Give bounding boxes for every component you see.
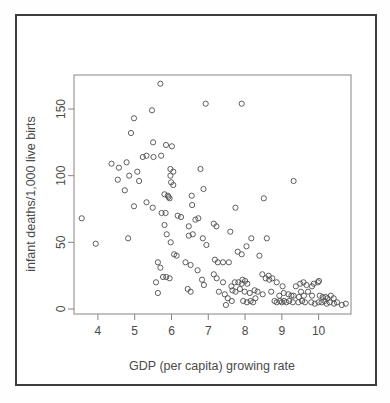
data-point-marker	[242, 289, 247, 294]
data-point-marker	[260, 292, 265, 297]
data-point-marker	[220, 280, 225, 285]
data-point-marker	[158, 265, 163, 270]
data-point-marker	[186, 224, 191, 229]
data-point-marker	[201, 186, 206, 191]
data-point-marker	[149, 108, 154, 113]
data-point-marker	[137, 178, 142, 183]
data-point-marker	[124, 160, 129, 165]
x-tick-label: 8	[242, 324, 249, 338]
data-point-marker	[291, 178, 296, 183]
data-point-marker	[79, 216, 84, 221]
data-point-marker	[309, 293, 314, 298]
data-point-marker	[131, 116, 136, 121]
data-point-marker	[220, 260, 225, 265]
x-tick-label: 9	[278, 324, 285, 338]
x-tick-label: 6	[168, 324, 175, 338]
data-point-marker	[239, 101, 244, 106]
data-point-marker	[216, 289, 221, 294]
screenshot-canvas: 45678910 050100150 GDP (per capita) grow…	[0, 0, 390, 403]
data-point-marker	[126, 236, 131, 241]
data-point-marker	[128, 130, 133, 135]
data-point-marker	[274, 280, 279, 285]
data-point-marker	[122, 188, 127, 193]
data-point-marker	[188, 262, 193, 267]
y-tick-label: 100	[54, 165, 68, 185]
data-point-marker	[261, 196, 266, 201]
scatter-plot: 45678910 050100150 GDP (per capita) grow…	[17, 16, 375, 384]
x-tick-label: 5	[131, 324, 138, 338]
data-point-marker	[301, 293, 306, 298]
data-point-marker	[229, 298, 234, 303]
data-point-marker	[199, 277, 204, 282]
data-point-marker	[169, 144, 174, 149]
data-point-marker	[116, 165, 121, 170]
data-point-marker	[264, 236, 269, 241]
data-point-marker	[190, 202, 195, 207]
y-tick-label: 150	[54, 99, 68, 119]
data-point-marker	[316, 278, 321, 283]
data-point-marker	[239, 252, 244, 257]
data-point-marker	[144, 200, 149, 205]
data-point-marker	[131, 204, 136, 209]
figure-frame: 45678910 050100150 GDP (per capita) grow…	[15, 14, 377, 386]
data-points	[79, 81, 348, 308]
plot-box	[74, 75, 351, 314]
data-point-marker	[164, 274, 169, 279]
x-tick-label: 7	[205, 324, 212, 338]
data-point-marker	[269, 289, 274, 294]
data-point-marker	[204, 242, 209, 247]
data-point-marker	[109, 161, 114, 166]
data-point-marker	[298, 281, 303, 286]
y-axis-label: infant deaths/1,000 live birts	[24, 116, 38, 272]
data-point-marker	[151, 140, 156, 145]
data-point-marker	[151, 154, 156, 159]
x-tick-label: 4	[95, 324, 102, 338]
data-point-marker	[237, 286, 242, 291]
data-point-marker	[168, 240, 173, 245]
data-point-marker	[153, 280, 158, 285]
data-point-marker	[214, 276, 219, 281]
data-point-marker	[167, 276, 172, 281]
data-point-marker	[155, 260, 160, 265]
data-point-marker	[159, 153, 164, 158]
data-point-marker	[228, 229, 233, 234]
data-point-marker	[280, 284, 285, 289]
data-point-marker	[158, 81, 163, 86]
data-point-marker	[226, 260, 231, 265]
data-point-marker	[244, 244, 249, 249]
data-point-marker	[163, 142, 168, 147]
y-tick-label: 0	[54, 305, 68, 312]
y-tick-label: 50	[54, 235, 68, 249]
data-point-marker	[201, 282, 206, 287]
data-point-marker	[223, 302, 228, 307]
data-point-marker	[195, 268, 200, 273]
data-point-marker	[164, 232, 169, 237]
data-point-marker	[155, 290, 160, 295]
data-point-marker	[135, 169, 140, 174]
data-point-marker	[203, 101, 208, 106]
data-point-marker	[305, 289, 310, 294]
data-point-marker	[93, 241, 98, 246]
x-axis: 45678910	[95, 314, 326, 338]
data-point-marker	[198, 166, 203, 171]
data-point-marker	[189, 193, 194, 198]
data-point-marker	[183, 260, 188, 265]
x-tick-label: 10	[312, 324, 326, 338]
y-axis: 050100150	[54, 99, 74, 313]
data-point-marker	[175, 213, 180, 218]
data-point-marker	[162, 222, 167, 227]
data-point-marker	[200, 236, 205, 241]
data-point-marker	[150, 205, 155, 210]
data-point-marker	[233, 205, 238, 210]
data-point-marker	[249, 236, 254, 241]
data-point-marker	[127, 173, 132, 178]
data-point-marker	[168, 173, 173, 178]
data-point-marker	[178, 214, 183, 219]
data-point-marker	[247, 290, 252, 295]
data-point-marker	[257, 253, 262, 258]
data-point-marker	[115, 177, 120, 182]
x-axis-label: GDP (per capita) growing rate	[129, 359, 295, 373]
